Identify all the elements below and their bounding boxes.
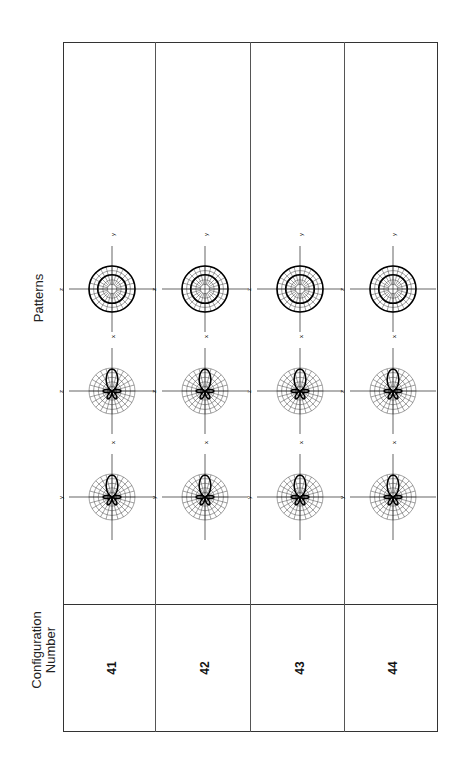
row-divider-2 bbox=[250, 42, 251, 732]
omni-pattern-diagram: yz bbox=[205, 288, 206, 289]
axis-label: y bbox=[151, 496, 157, 499]
axis-label: x bbox=[203, 335, 209, 338]
row-divider-1 bbox=[155, 42, 156, 732]
axis-label: y bbox=[110, 233, 116, 236]
rotated-page: Configuration Number Patterns 41xyxzyz42… bbox=[0, 0, 462, 768]
axis-label: y bbox=[58, 496, 64, 499]
omni-pattern-diagram: yz bbox=[112, 288, 113, 289]
axis-label: z bbox=[339, 390, 345, 393]
patterns-header: Patterns bbox=[32, 248, 46, 348]
lobe-pattern-diagram: xy bbox=[205, 496, 206, 497]
axis-label: y bbox=[391, 233, 397, 236]
lobe-pattern-diagram: xz bbox=[205, 390, 206, 391]
config-number: 43 bbox=[293, 638, 307, 698]
axis-label: x bbox=[203, 441, 209, 444]
axis-label: x bbox=[110, 335, 116, 338]
axis-label: z bbox=[151, 390, 157, 393]
config-number: 41 bbox=[105, 638, 119, 698]
lobe-pattern-diagram: xz bbox=[300, 390, 301, 391]
axis-label: x bbox=[391, 335, 397, 338]
axis-label: z bbox=[246, 390, 252, 393]
axis-label: x bbox=[298, 441, 304, 444]
axis-label: x bbox=[110, 441, 116, 444]
lobe-pattern-diagram: xy bbox=[112, 496, 113, 497]
omni-pattern-diagram: yz bbox=[393, 288, 394, 289]
axis-label: x bbox=[391, 441, 397, 444]
lobe-pattern-diagram: xy bbox=[300, 496, 301, 497]
config-number-header: Configuration Number bbox=[30, 590, 58, 710]
axis-label: y bbox=[298, 233, 304, 236]
lobe-pattern-diagram: xz bbox=[393, 390, 394, 391]
config-number: 42 bbox=[198, 638, 212, 698]
axis-label: z bbox=[339, 288, 345, 291]
header-line-2: Number bbox=[44, 590, 58, 710]
header-line-1: Configuration bbox=[30, 590, 44, 710]
axis-label: y bbox=[339, 496, 345, 499]
lobe-pattern-diagram: xy bbox=[393, 496, 394, 497]
lobe-pattern-diagram: xz bbox=[112, 390, 113, 391]
axis-label: y bbox=[246, 496, 252, 499]
axis-label: y bbox=[203, 233, 209, 236]
axis-label: z bbox=[246, 288, 252, 291]
axis-label: z bbox=[151, 288, 157, 291]
omni-pattern-diagram: yz bbox=[300, 288, 301, 289]
axis-label: z bbox=[58, 288, 64, 291]
axis-label: z bbox=[58, 390, 64, 393]
row-divider-3 bbox=[344, 42, 345, 732]
axis-label: x bbox=[298, 335, 304, 338]
config-number: 44 bbox=[386, 638, 400, 698]
